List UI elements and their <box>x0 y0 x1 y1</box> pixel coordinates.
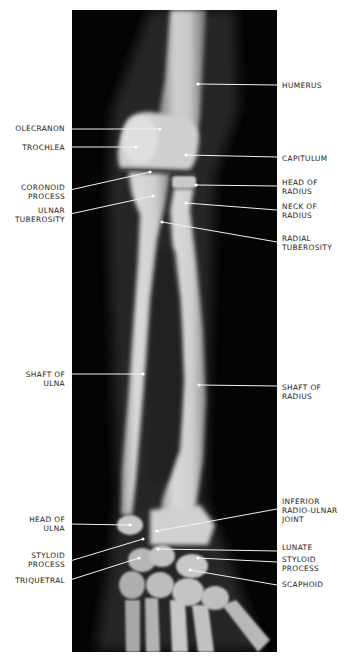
label-coronoid-process: CORONOIDPROCESS <box>21 183 65 201</box>
pointer-dot-styloid-process-radius <box>196 556 199 559</box>
pointer-dot-scaphoid <box>188 568 191 571</box>
pointer-dot-humerus <box>196 82 199 85</box>
label-lunate: LUNATE <box>282 543 312 552</box>
label-triquetral: TRIQUETRAL <box>15 576 65 585</box>
label-text: PROCESS <box>21 192 65 201</box>
label-text: RADIUS <box>282 392 321 401</box>
label-text: ULNA <box>26 379 65 388</box>
label-text: ULNA <box>29 524 65 533</box>
pointer-dot-head-of-ulna <box>128 523 131 526</box>
label-text: SHAFT OF <box>26 370 65 379</box>
label-trochlea: TROCHLEA <box>22 143 65 152</box>
label-text: TUBEROSITY <box>282 243 332 252</box>
label-text: TRIQUETRAL <box>15 576 65 585</box>
label-text: JOINT <box>282 515 338 524</box>
label-text: SCAPHOID <box>282 580 323 589</box>
label-neck-of-radius: NECK OFRADIUS <box>282 202 317 220</box>
label-text: TUBEROSITY <box>15 215 65 224</box>
label-text: HEAD OF <box>282 178 318 187</box>
label-text: CORONOID <box>21 183 65 192</box>
pointer-dot-capitulum <box>184 153 187 156</box>
label-text: PROCESS <box>28 560 65 569</box>
pointer-dot-neck-of-radius <box>184 201 187 204</box>
label-styloid-process-ulna: STYLOIDPROCESS <box>28 551 65 569</box>
label-styloid-process-radius: STYLOIDPROCESS <box>282 555 319 573</box>
label-inferior-radio-ulnar-joint: INFERIORRADIO-ULNARJOINT <box>282 497 338 524</box>
pointer-dot-shaft-of-ulna <box>141 372 144 375</box>
label-text: RADIUS <box>282 211 317 220</box>
pointer-dot-inferior-radio-ulnar-joint <box>155 529 158 532</box>
label-text: INFERIOR <box>282 497 338 506</box>
label-text: PROCESS <box>282 564 319 573</box>
label-shaft-of-ulna: SHAFT OFULNA <box>26 370 65 388</box>
pointer-dot-styloid-process-ulna <box>141 537 144 540</box>
label-text: CAPITULUM <box>282 154 327 163</box>
label-scaphoid: SCAPHOID <box>282 580 323 589</box>
label-text: RADIAL <box>282 234 332 243</box>
pointer-dot-head-of-radius <box>194 183 197 186</box>
label-text: HUMERUS <box>282 81 322 90</box>
label-text: TROCHLEA <box>22 143 65 152</box>
label-text: STYLOID <box>282 555 319 564</box>
forearm-radiograph-figure: OLECRANONTROCHLEACORONOIDPROCESSULNARTUB… <box>0 0 350 661</box>
label-text: STYLOID <box>28 551 65 560</box>
label-olecranon: OLECRANON <box>15 124 65 133</box>
pointer-dot-triquetral <box>137 556 140 559</box>
label-head-of-ulna: HEAD OFULNA <box>29 515 65 533</box>
label-capitulum: CAPITULUM <box>282 154 327 163</box>
label-text: HEAD OF <box>29 515 65 524</box>
label-text: OLECRANON <box>15 124 65 133</box>
label-head-of-radius: HEAD OFRADIUS <box>282 178 318 196</box>
label-text: SHAFT OF <box>282 383 321 392</box>
pointer-dot-trochlea <box>134 145 137 148</box>
pointer-dot-radial-tuberosity <box>160 220 163 223</box>
label-text: NECK OF <box>282 202 317 211</box>
label-text: ULNAR <box>15 206 65 215</box>
pointer-dot-coronoid-process <box>148 170 151 173</box>
label-humerus: HUMERUS <box>282 81 322 90</box>
label-text: RADIO-ULNAR <box>282 506 338 515</box>
pointer-dot-ulnar-tuberosity <box>151 194 154 197</box>
pointer-dot-lunate <box>156 547 159 550</box>
label-shaft-of-radius: SHAFT OFRADIUS <box>282 383 321 401</box>
label-ulnar-tuberosity: ULNARTUBEROSITY <box>15 206 65 224</box>
label-radial-tuberosity: RADIALTUBEROSITY <box>282 234 332 252</box>
pointer-dot-olecranon <box>158 127 161 130</box>
label-text: LUNATE <box>282 543 312 552</box>
label-text: RADIUS <box>282 187 318 196</box>
pointer-dot-shaft-of-radius <box>197 383 200 386</box>
